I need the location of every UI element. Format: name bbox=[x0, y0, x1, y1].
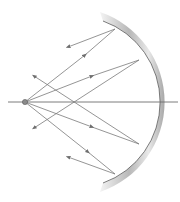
incident-ray-top bbox=[25, 29, 115, 102]
reflected-ray-bottom bbox=[68, 157, 115, 174]
concave-mirror-diagram bbox=[0, 0, 180, 202]
reflected-ray-upper bbox=[34, 60, 139, 128]
ray-diagram bbox=[0, 0, 180, 202]
incident-rays bbox=[25, 29, 139, 174]
reflected-ray-lower bbox=[34, 76, 139, 144]
point-source bbox=[22, 99, 27, 104]
reflected-rays bbox=[34, 29, 139, 174]
reflected-ray-top bbox=[68, 29, 115, 47]
incident-ray-bottom bbox=[25, 102, 115, 174]
